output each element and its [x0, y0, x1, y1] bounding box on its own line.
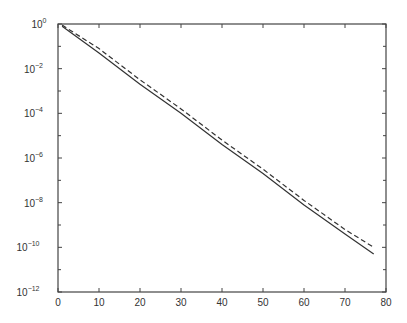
x-tick-label: 40 — [216, 297, 228, 308]
x-tick-label: 50 — [257, 297, 269, 308]
y-tick-label: 10−8 — [24, 196, 43, 209]
y-tick-label: 100 — [31, 17, 46, 30]
x-axis: 01020304050607080 — [55, 24, 392, 308]
x-tick-label: 70 — [339, 297, 351, 308]
y-tick-label: 10−10 — [17, 240, 40, 253]
x-tick-label: 80 — [380, 297, 392, 308]
x-tick-label: 60 — [298, 297, 310, 308]
y-tick-label: 10−2 — [24, 62, 43, 75]
plot-frame — [58, 24, 386, 292]
y-tick-label: 10−12 — [17, 285, 40, 298]
x-tick-label: 10 — [93, 297, 105, 308]
y-axis: 10010−210−410−610−810−1010−12 — [17, 17, 387, 298]
y-tick-label: 10−4 — [24, 106, 43, 119]
x-tick-label: 0 — [55, 297, 61, 308]
data-series — [62, 25, 374, 254]
line-chart: 01020304050607080 10010−210−410−610−810−… — [0, 0, 407, 323]
series-solid-line — [62, 26, 374, 254]
y-tick-label: 10−6 — [24, 151, 43, 164]
x-tick-label: 20 — [134, 297, 146, 308]
x-tick-label: 30 — [175, 297, 187, 308]
series-dashed-line — [62, 25, 374, 247]
